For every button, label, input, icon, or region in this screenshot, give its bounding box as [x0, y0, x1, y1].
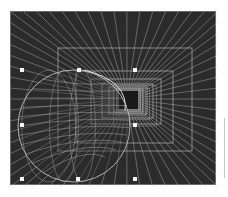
selection-handle[interactable] [20, 68, 24, 72]
tunnel-sphere-wireframe [11, 12, 217, 186]
panel-edge [224, 118, 225, 178]
selection-handle[interactable] [76, 177, 80, 181]
selection-handle[interactable] [20, 123, 24, 127]
sphere-wireframe [18, 70, 130, 182]
selection-handle[interactable] [20, 177, 24, 181]
selection-handle[interactable] [133, 177, 137, 181]
selection-handle[interactable] [133, 123, 137, 127]
selection-handle[interactable] [133, 68, 137, 72]
selection-handle[interactable] [77, 68, 81, 72]
wireframe-canvas[interactable] [10, 11, 216, 185]
